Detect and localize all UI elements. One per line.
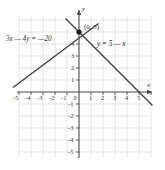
- y-axis-arrow: [77, 10, 82, 15]
- line1-equation-label: 3x — 4y = —20: [6, 36, 52, 43]
- intersection-point-marker: [76, 29, 81, 34]
- y-axis-label: y: [82, 6, 85, 13]
- line2-equation-label: y = 5 — x: [97, 41, 125, 48]
- x-tick-label-4: 4: [125, 95, 128, 101]
- y-tick-label--4: -4: [68, 137, 73, 143]
- x-tick-label-0: 0: [74, 95, 77, 101]
- y-tick-label-3: 3: [71, 53, 74, 59]
- graph-figure: -5 -4 -3 -2 -1 0 1 2 3 4 5 4 3 2 1 -1 -2…: [0, 0, 165, 170]
- x-tick-label--4: -4: [25, 95, 30, 101]
- x-tick-label-1: 1: [89, 95, 92, 101]
- y-tick-label--3: -3: [68, 125, 73, 131]
- y-tick-label-1: 1: [71, 77, 74, 83]
- x-tick-label-2: 2: [101, 95, 104, 101]
- y-tick-label-2: 2: [71, 65, 74, 71]
- x-axis-label: x: [147, 82, 150, 89]
- x-tick-label-3: 3: [113, 95, 116, 101]
- x-tick-label--5: -5: [13, 95, 18, 101]
- y-tick-label--1: -1: [68, 101, 73, 107]
- intersection-point-label: (0, 5): [84, 24, 99, 31]
- line-3x-minus-4y: [13, 23, 99, 87]
- y-tick-label--5: -5: [68, 149, 73, 155]
- x-tick-label-5: 5: [137, 95, 140, 101]
- y-tick-label-4: 4: [71, 41, 74, 47]
- y-tick-label--2: -2: [68, 113, 73, 119]
- x-tick-label--2: -2: [49, 95, 54, 101]
- x-tick-label--1: -1: [61, 95, 66, 101]
- coordinate-plane: [0, 0, 165, 170]
- x-tick-label--3: -3: [37, 95, 42, 101]
